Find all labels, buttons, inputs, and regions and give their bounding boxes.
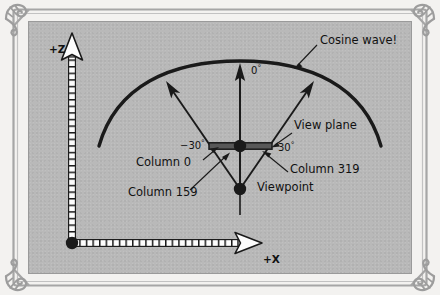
cosine-wave-label: Cosine wave! <box>320 35 397 47</box>
corner-flourish-bottom-left <box>6 260 26 290</box>
diagram-panel <box>29 22 411 273</box>
degree-symbol-left: ° <box>201 138 205 147</box>
angle-0-label: 0° <box>251 64 261 76</box>
column-319-label: Column 319 <box>290 164 360 176</box>
column-0-label: Column 0 <box>136 157 191 169</box>
z-axis-label: +Z <box>49 44 65 55</box>
angle-minus-30-value: −30 <box>180 140 201 151</box>
degree-symbol-0: ° <box>257 63 261 72</box>
corner-flourish-top-right <box>414 5 434 35</box>
degree-symbol-right: ° <box>291 140 295 149</box>
view-plane-label: View plane <box>294 120 357 132</box>
viewpoint-label: Viewpoint <box>257 182 314 194</box>
angle-plus-30-value: 30 <box>278 142 291 153</box>
corner-flourish-bottom-right <box>414 260 434 290</box>
diagram-figure: +Z +X Cosine wave! View plane Viewpoint … <box>0 0 440 295</box>
corner-flourish-top-left <box>6 5 26 35</box>
x-axis-label: +X <box>263 254 280 265</box>
angle-plus-30-label: 30° <box>278 141 294 153</box>
column-159-label: Column 159 <box>128 187 198 199</box>
angle-minus-30-label: −30° <box>180 139 205 151</box>
